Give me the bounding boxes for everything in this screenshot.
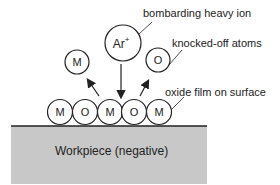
- leader-line-oxide: [171, 97, 184, 110]
- svg-text:M: M: [105, 106, 114, 118]
- leader-line-ion: [139, 22, 152, 34]
- surface-atom: M: [98, 100, 123, 125]
- ejected-atom: M: [65, 50, 89, 74]
- surface-atom: M: [147, 100, 172, 125]
- surface-atom: O: [122, 100, 147, 125]
- surface-atom: O: [73, 100, 98, 125]
- ejection-arrow-right: [140, 81, 148, 96]
- leader-line-knocked: [169, 50, 182, 65]
- sputtering-diagram: Workpiece (negative) M O M O M Ar+ M O: [0, 0, 280, 185]
- argon-ion: Ar+: [105, 25, 141, 61]
- ejection-arrow-left: [88, 80, 99, 96]
- label-knocked-off-atoms: knocked-off atoms: [172, 37, 262, 49]
- surface-atom: M: [48, 100, 73, 125]
- workpiece-label: Workpiece (negative): [55, 144, 168, 158]
- svg-text:O: O: [154, 54, 163, 66]
- svg-text:O: O: [130, 106, 139, 118]
- svg-text:M: M: [55, 106, 64, 118]
- ejected-atom: O: [146, 48, 170, 72]
- label-oxide-film: oxide film on surface: [165, 86, 266, 98]
- svg-text:M: M: [154, 106, 163, 118]
- label-bombarding-ion: bombarding heavy ion: [143, 7, 251, 19]
- svg-text:O: O: [81, 106, 90, 118]
- svg-text:M: M: [72, 56, 81, 68]
